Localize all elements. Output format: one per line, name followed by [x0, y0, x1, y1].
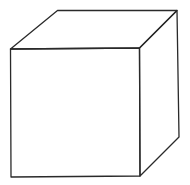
- cube-diagram: [0, 0, 190, 185]
- background: [0, 0, 190, 185]
